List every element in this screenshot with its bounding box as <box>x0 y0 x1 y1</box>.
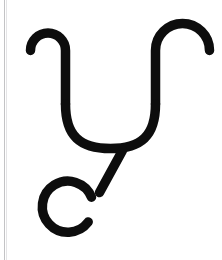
image-canvas <box>0 0 222 260</box>
u-bowl-stroke <box>66 104 156 149</box>
diagonal-tail-stroke <box>100 151 123 193</box>
open-circle-stroke <box>42 181 91 232</box>
left-hook-stroke <box>31 33 66 104</box>
glyph-drawing <box>0 0 222 260</box>
right-hook-stroke <box>156 24 210 104</box>
